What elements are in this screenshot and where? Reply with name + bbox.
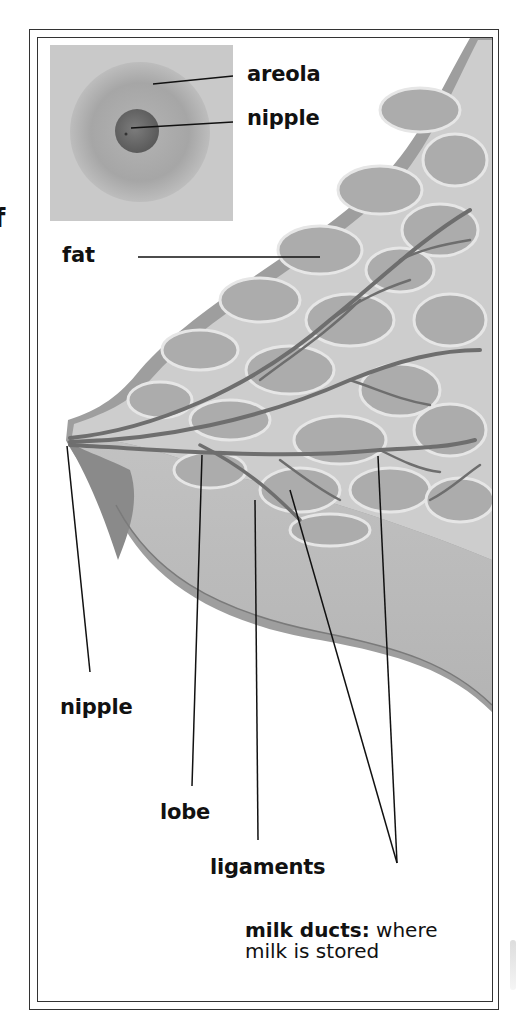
label-milk-ducts: milk ducts: where milk is stored: [245, 920, 437, 962]
label-areola: areola: [247, 62, 320, 86]
page-edge-artifact: [510, 940, 516, 990]
label-milk-ducts-desc-2: milk is stored: [245, 939, 379, 963]
label-ligaments: ligaments: [210, 855, 325, 879]
areola-inset: [50, 45, 233, 221]
label-lobe: lobe: [160, 800, 210, 824]
label-inset-nipple: nipple: [247, 106, 319, 130]
label-nipple: nipple: [60, 695, 132, 719]
label-fat: fat: [62, 243, 95, 267]
label-milk-ducts-desc-1: where: [376, 918, 437, 942]
leader-nipple: [67, 446, 90, 672]
